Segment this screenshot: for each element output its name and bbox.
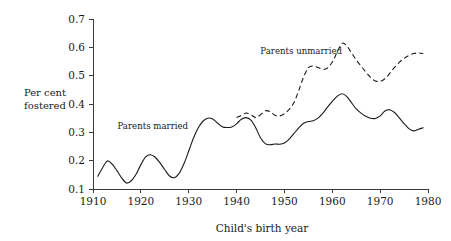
annotation-parents-married: Parents married: [117, 121, 188, 131]
x-tick-label: 1950: [271, 195, 298, 207]
chart-container: 19101920193019401950196019701980 0.10.20…: [0, 0, 451, 241]
x-tick-label: 1980: [415, 195, 442, 207]
annotation-parents-unmarried: Parents unmarried: [260, 46, 342, 56]
line-chart-svg: 19101920193019401950196019701980 0.10.20…: [0, 0, 451, 241]
y-tick-label: 0.5: [68, 69, 85, 81]
y-tick-labels: 0.10.20.30.40.50.60.7: [68, 13, 85, 195]
series-line-married: [98, 94, 423, 183]
y-tick-label: 0.6: [68, 41, 85, 53]
x-axis-title: Child's birth year: [216, 222, 310, 234]
data-series-group: [98, 43, 423, 183]
y-tick-label: 0.3: [68, 126, 85, 138]
x-tick-label: 1940: [223, 195, 250, 207]
y-tick-label: 0.7: [68, 13, 85, 25]
x-tick-labels: 19101920193019401950196019701980: [80, 195, 442, 207]
y-axis-label-line-2: fostered: [24, 100, 66, 111]
y-tick-label: 0.1: [68, 183, 85, 195]
axes-group: [93, 19, 428, 189]
x-tick-label: 1970: [367, 195, 394, 207]
x-tick-label: 1930: [175, 195, 202, 207]
x-tick-label: 1910: [80, 195, 107, 207]
y-tick-label: 0.4: [68, 98, 85, 110]
y-axis-label-line-1: Per cent: [24, 87, 66, 98]
x-tick-label: 1960: [319, 195, 346, 207]
y-tick-label: 0.2: [68, 154, 85, 166]
x-tick-label: 1920: [127, 195, 154, 207]
